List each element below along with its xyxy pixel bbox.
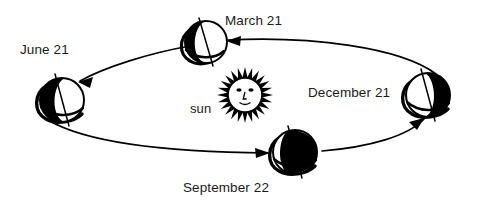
earth-june-21 (37, 74, 84, 126)
orbit-diagram-svg (0, 0, 477, 205)
orbit-diagram-canvas: March 21 June 21 September 22 December 2… (0, 0, 477, 205)
label-march-21: March 21 (225, 13, 282, 28)
label-december-21: December 21 (308, 85, 390, 100)
orbit-arc-september-to-december (322, 119, 424, 151)
earth-march-21 (181, 18, 227, 66)
label-september-22: September 22 (183, 180, 269, 195)
arrowhead-toward-september (255, 148, 270, 158)
label-sun: sun (190, 101, 211, 116)
sun-disc (228, 78, 262, 112)
orbit-arc-june-to-september (48, 120, 268, 153)
orbit-arc-december-to-march (228, 39, 436, 74)
sun-face-icon (217, 67, 273, 123)
sun-eye-left (236, 88, 241, 91)
orbit-arc-march-to-june (80, 46, 190, 81)
arrowhead-toward-march (226, 36, 241, 46)
sun-eye-right (248, 88, 253, 91)
earth-september-22 (270, 126, 317, 178)
label-june-21: June 21 (20, 42, 69, 57)
earth-december-21 (403, 69, 450, 121)
